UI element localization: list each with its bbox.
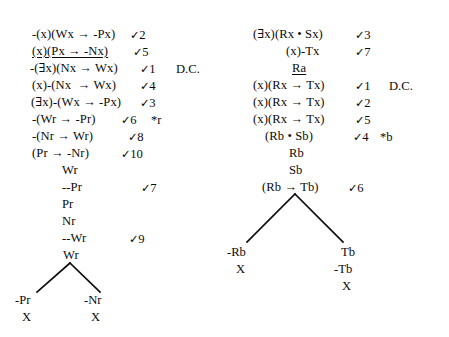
- left-tree-branch-fork: [0, 0, 230, 337]
- right-branch-arm-right: [295, 194, 343, 242]
- right-branch-arm-left: [247, 194, 295, 242]
- left-branch-arm-left: [37, 263, 70, 292]
- branch-leaf-formula: -Tb: [334, 262, 352, 277]
- branch-leaf-formula: -Nr: [84, 293, 101, 308]
- branch-leaf-formula: -Rb: [227, 245, 246, 260]
- branch-closure-mark: X: [91, 310, 100, 325]
- left-branch-arm-right: [70, 263, 100, 292]
- branch-closure-mark: X: [236, 262, 245, 277]
- branch-closure-mark: X: [22, 310, 31, 325]
- branch-leaf-formula: -Pr: [15, 293, 30, 308]
- right-tree-branch-fork: [230, 0, 449, 337]
- proof-canvas: -(x)(Wx → -Px)✓2(x)(Px → -Nx)✓5-(∃x)(Nx …: [0, 0, 449, 337]
- branch-closure-mark: X: [342, 279, 351, 294]
- branch-leaf-formula: Tb: [341, 245, 355, 260]
